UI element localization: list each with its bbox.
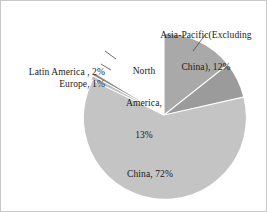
- slice-label-north-america-line-1: North: [116, 66, 172, 77]
- slice-label-europe: Europe, 1%: [7, 58, 105, 111]
- slice-label-asia-pacific-line-1: Asia-Pacific(Excluding: [147, 30, 265, 41]
- slice-label-north-america-line-2: America,: [116, 98, 172, 109]
- pie-chart-figure: Asia-Pacific(Excluding China), 12% Latin…: [0, 0, 267, 212]
- slice-label-north-america: North America, 13%: [116, 45, 172, 162]
- slice-label-china: China, 72%: [111, 148, 189, 201]
- slice-label-north-america-line-3: 13%: [116, 130, 172, 141]
- slice-label-europe-line-1: Europe, 1%: [7, 79, 105, 90]
- leader-line-latin-america: [105, 51, 116, 59]
- slice-label-china-line-1: China, 72%: [111, 169, 189, 180]
